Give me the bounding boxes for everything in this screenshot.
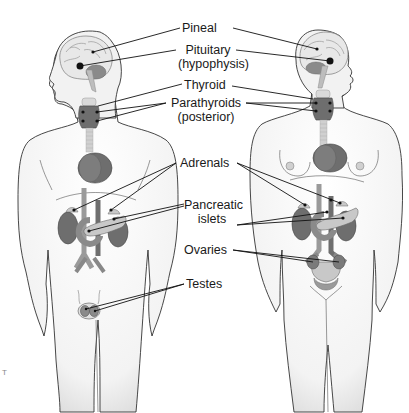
label-adrenals: Adrenals xyxy=(180,156,229,170)
label-thyroid: Thyroid xyxy=(184,78,226,92)
label-parathyroids-line1: Parathyroids xyxy=(166,96,246,110)
label-pituitary: Pituitary (hypophysis) xyxy=(178,43,238,71)
label-pituitary-line1: Pituitary xyxy=(178,43,238,57)
label-parathyroids: Parathyroids (posterior) xyxy=(166,96,246,124)
corner-mark: T xyxy=(2,368,7,377)
label-ovaries: Ovaries xyxy=(184,243,227,257)
label-pituitary-line2: (hypophysis) xyxy=(178,57,238,71)
label-pancreatic-islets: Pancreatic islets xyxy=(184,198,240,226)
label-parathyroids-line2: (posterior) xyxy=(166,110,246,124)
male-testis-left xyxy=(81,306,90,317)
label-pancreatic-line1: Pancreatic xyxy=(184,198,240,212)
label-testes: Testes xyxy=(186,277,222,291)
female-kidney-left xyxy=(292,208,312,240)
female-figure xyxy=(250,30,403,412)
label-pancreatic-line2: islets xyxy=(184,212,240,226)
label-pineal: Pineal xyxy=(182,21,217,35)
female-thyroid xyxy=(313,98,334,120)
male-figure xyxy=(18,31,178,412)
male-kidney-left xyxy=(58,212,78,244)
male-thyroid xyxy=(79,106,100,128)
